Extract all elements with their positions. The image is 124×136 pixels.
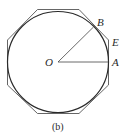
label-b: B xyxy=(97,16,104,28)
label-e: E xyxy=(111,36,119,48)
diagram-canvas: O A B E (b) xyxy=(0,0,124,136)
radius-ob xyxy=(58,27,94,62)
label-o: O xyxy=(45,56,53,68)
label-a: A xyxy=(111,56,119,68)
figure-caption: (b) xyxy=(52,121,64,133)
